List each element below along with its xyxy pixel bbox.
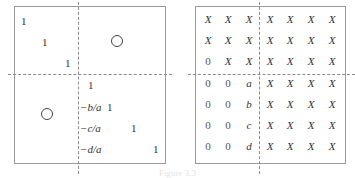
matrix-cell: X	[219, 13, 237, 25]
matrix-cell: X	[302, 119, 320, 131]
left-matrix-horizontal-partition	[8, 74, 172, 75]
zero-block-circle-bottom-left	[41, 108, 53, 120]
matrix-cell: X	[302, 55, 320, 67]
matrix-cell: X	[281, 13, 299, 25]
matrix-cell: X	[199, 34, 217, 46]
left-br-diag-1: 1	[88, 79, 94, 91]
left-diag-3: 1	[65, 57, 71, 69]
matrix-cell: 0	[219, 98, 237, 110]
matrix-cell: X	[219, 55, 237, 67]
matrix-cell: X	[302, 98, 320, 110]
matrix-cell: X	[323, 98, 341, 110]
matrix-cell: 0	[199, 55, 217, 67]
left-br-entry-c: −c/a	[80, 122, 101, 134]
matrix-cell: X	[281, 140, 299, 152]
matrix-cell: X	[261, 119, 279, 131]
zero-block-circle-top-right	[111, 35, 123, 47]
matrix-cell: 0	[199, 77, 217, 89]
matrix-cell: X	[281, 34, 299, 46]
matrix-cell: X	[323, 34, 341, 46]
left-br-entry-d: −d/a	[80, 143, 101, 155]
matrix-cell: X	[302, 77, 320, 89]
matrix-cell: 0	[219, 119, 237, 131]
matrix-cell: X	[323, 140, 341, 152]
matrix-cell: X	[240, 13, 258, 25]
figure-caption: Figure 3.3	[0, 168, 355, 178]
matrix-cell: 0	[199, 140, 217, 152]
right-matrix-vertical-partition	[259, 2, 260, 174]
matrix-cell: X	[302, 13, 320, 25]
matrix-cell: c	[240, 119, 258, 131]
matrix-cell: X	[281, 119, 299, 131]
matrix-cell: 0	[199, 119, 217, 131]
matrix-cell: X	[281, 55, 299, 67]
matrix-cell: X	[240, 34, 258, 46]
matrix-cell: 0	[199, 98, 217, 110]
matrix-cell: X	[261, 13, 279, 25]
right-matrix-horizontal-partition	[188, 74, 355, 75]
left-br-diag-3: 1	[131, 122, 137, 134]
matrix-cell: X	[323, 119, 341, 131]
matrix-cell: b	[240, 98, 258, 110]
matrix-cell: X	[323, 55, 341, 67]
matrix-cell: X	[261, 55, 279, 67]
matrix-cell: X	[261, 34, 279, 46]
matrix-cell: X	[199, 13, 217, 25]
matrix-cell: X	[261, 140, 279, 152]
matrix-cell: X	[302, 140, 320, 152]
left-br-diag-2: 1	[107, 101, 113, 113]
matrix-cell: X	[261, 98, 279, 110]
matrix-cell: X	[323, 77, 341, 89]
left-diag-2: 1	[42, 36, 48, 48]
matrix-cell: X	[323, 13, 341, 25]
matrix-cell: X	[240, 55, 258, 67]
matrix-cell: a	[240, 77, 258, 89]
matrix-cell: X	[302, 34, 320, 46]
matrix-cell: X	[281, 98, 299, 110]
matrix-cell: X	[281, 77, 299, 89]
matrix-cell: d	[240, 140, 258, 152]
matrix-cell: 0	[219, 77, 237, 89]
left-br-diag-4: 1	[153, 143, 159, 155]
left-br-entry-b: −b/a	[80, 101, 101, 113]
matrix-cell: X	[219, 34, 237, 46]
left-matrix-vertical-partition	[78, 2, 79, 174]
matrix-cell: X	[261, 77, 279, 89]
left-diag-1: 1	[21, 15, 27, 27]
matrix-cell: 0	[219, 140, 237, 152]
